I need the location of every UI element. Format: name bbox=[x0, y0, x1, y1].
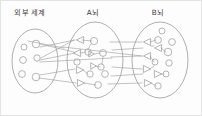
links-brain-a-internal bbox=[80, 40, 103, 85]
link-line bbox=[88, 44, 91, 49]
node-circle bbox=[164, 48, 172, 56]
nodes-external-world bbox=[19, 40, 41, 81]
node-circle bbox=[169, 39, 176, 46]
node-triangle-right bbox=[91, 63, 97, 69]
node-circle bbox=[32, 40, 40, 48]
node-circle bbox=[34, 55, 40, 61]
node-triangle-right bbox=[154, 71, 161, 78]
link-line bbox=[102, 57, 103, 64]
region-external-world bbox=[12, 29, 58, 93]
label-brain-b: B뇌 bbox=[152, 8, 164, 17]
link-line bbox=[111, 74, 143, 76]
node-triangle-left bbox=[143, 39, 150, 46]
node-triangle-right bbox=[143, 66, 150, 73]
link-line bbox=[108, 83, 142, 84]
link-line bbox=[111, 56, 142, 57]
regions-group bbox=[12, 22, 188, 98]
label-brain-a: A뇌 bbox=[87, 8, 99, 17]
node-circle bbox=[100, 50, 107, 57]
label-external-world: 외부 세계 bbox=[14, 8, 45, 17]
node-circle bbox=[159, 28, 165, 34]
node-triangle-right bbox=[77, 80, 84, 87]
link-line bbox=[112, 67, 142, 69]
node-triangle-left bbox=[143, 53, 150, 60]
link-line bbox=[63, 47, 142, 56]
link-line bbox=[94, 53, 100, 54]
node-circle bbox=[21, 44, 27, 50]
link-line bbox=[150, 66, 154, 69]
node-circle bbox=[152, 59, 158, 65]
node-circle bbox=[20, 57, 27, 64]
diagram-canvas: 외부 세계 A뇌 B뇌 bbox=[0, 0, 202, 116]
link-line bbox=[112, 48, 143, 50]
node-triangle-right bbox=[76, 67, 83, 74]
node-circle bbox=[19, 71, 26, 78]
node-circle bbox=[166, 60, 172, 66]
node-circle bbox=[102, 71, 109, 78]
nodes-brain-b bbox=[143, 28, 175, 89]
link-line bbox=[84, 83, 96, 85]
links-a-to-b bbox=[63, 42, 143, 84]
labels-group: 외부 세계 A뇌 B뇌 bbox=[14, 8, 164, 17]
node-triangle-right bbox=[144, 80, 151, 87]
node-triangle-left bbox=[154, 45, 161, 52]
node-circle bbox=[32, 73, 40, 81]
diagram-figure: 외부 세계 A뇌 B뇌 bbox=[0, 0, 202, 116]
figure-border bbox=[1, 1, 202, 116]
